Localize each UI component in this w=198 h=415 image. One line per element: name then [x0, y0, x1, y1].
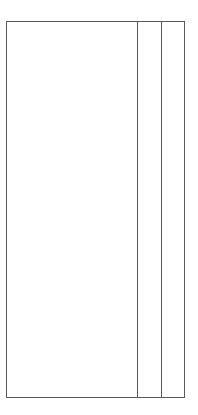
main-pane — [7, 22, 138, 397]
right-pane — [162, 22, 184, 397]
middle-pane — [138, 22, 162, 397]
outer-frame — [6, 21, 185, 398]
diagram-canvas — [0, 0, 198, 415]
